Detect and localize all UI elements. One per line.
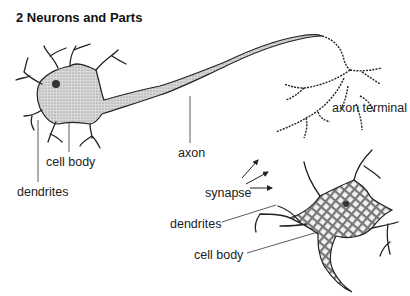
neuron-2 (255, 150, 398, 292)
nucleus-2 (343, 201, 349, 207)
label-axon-terminal: axon terminal (332, 101, 407, 115)
axon-terminal-branches (276, 36, 382, 138)
label-axon: axon (178, 146, 205, 160)
label-dendrites-1: dendrites (17, 185, 68, 199)
neuron-diagram: cell body dendrites axon axon terminal s… (0, 0, 410, 296)
label-cell-body-1: cell body (46, 155, 96, 169)
synapse-arrows (242, 160, 272, 188)
label-cell-body-2: cell body (194, 248, 244, 262)
label-dendrites-2: dendrites (170, 217, 221, 231)
label-synapse: synapse (205, 186, 252, 200)
neuron-1 (16, 35, 322, 149)
nucleus-1 (52, 80, 60, 88)
